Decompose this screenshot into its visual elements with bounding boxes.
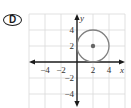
y-axis-arrow-down-icon: [74, 101, 79, 107]
x-tick-label: −4: [40, 65, 50, 75]
axis-labels: xy: [79, 13, 124, 75]
x-tick-label: 2: [91, 65, 96, 75]
y-tick-label: 2: [70, 41, 75, 51]
x-axis-arrow-left-icon: [29, 59, 35, 64]
coordinate-plane: −4−22442−2−4 xy: [0, 0, 131, 108]
circle-center-point: [91, 44, 95, 48]
x-tick-label: 4: [107, 65, 112, 75]
x-axis-arrow-right-icon: [119, 59, 125, 64]
x-axis-label: x: [119, 65, 124, 75]
y-tick-label: 4: [70, 25, 75, 35]
y-tick-label: −2: [64, 73, 74, 83]
y-tick-label: −4: [64, 89, 74, 99]
y-axis-label: y: [79, 13, 84, 23]
y-axis-arrow-up-icon: [74, 14, 79, 20]
y-axis: [74, 14, 79, 107]
